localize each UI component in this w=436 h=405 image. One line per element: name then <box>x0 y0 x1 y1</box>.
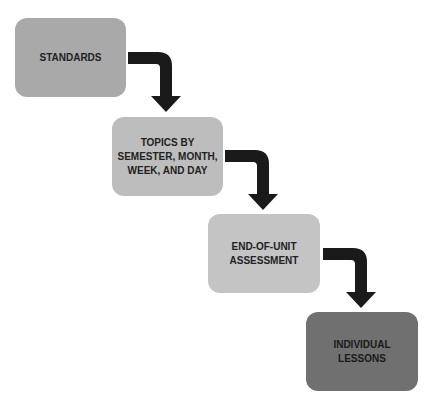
step-assessment: END-OF-UNIT ASSESSMENT <box>208 214 320 293</box>
step-individual-lessons: INDIVIDUAL LESSONS <box>306 312 418 391</box>
arrow-down-right-icon <box>225 150 285 212</box>
step-label: STANDARDS <box>39 51 101 65</box>
arrow-down-right-icon <box>128 52 188 114</box>
step-standards: STANDARDS <box>15 18 126 97</box>
step-label: END-OF-UNIT ASSESSMENT <box>224 240 304 268</box>
step-label: TOPICS BY SEMESTER, MONTH, WEEK, AND DAY <box>118 136 218 178</box>
step-label: INDIVIDUAL LESSONS <box>310 338 414 366</box>
arrow-down-right-icon <box>323 248 383 310</box>
step-topics: TOPICS BY SEMESTER, MONTH, WEEK, AND DAY <box>112 117 223 196</box>
